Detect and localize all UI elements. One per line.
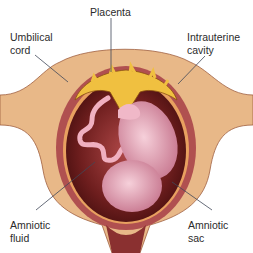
label-amniotic-sac-line2: sac	[188, 232, 204, 244]
label-placenta: Placenta	[90, 6, 131, 18]
label-amniotic-fluid-line1: Amniotic	[10, 219, 50, 231]
label-amniotic-fluid-line2: fluid	[10, 232, 29, 244]
label-amniotic-sac-line1: Amniotic	[188, 219, 228, 231]
label-umbilical-cord-line2: cord	[10, 44, 30, 56]
fetus-head	[102, 160, 162, 212]
label-umbilical-cord-line1: Umbilical	[10, 31, 53, 43]
label-intrauterine-line1: Intrauterine	[187, 31, 240, 43]
label-intrauterine-line2: cavity	[187, 44, 214, 56]
